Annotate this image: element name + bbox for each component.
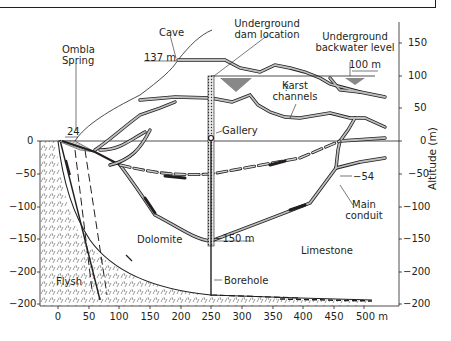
right-axis bbox=[399, 22, 402, 306]
borehole-bottom-label: −150 m bbox=[214, 233, 254, 244]
y-tick: −100 bbox=[403, 202, 430, 212]
left-y-tick: −200 bbox=[9, 299, 36, 309]
x-tick: 50 bbox=[83, 312, 96, 322]
left-y-tick: −200 bbox=[9, 267, 36, 277]
left-y-tick: −150 bbox=[9, 234, 36, 244]
backwater-line1: Underground bbox=[312, 31, 398, 42]
flysh-label: Flysh bbox=[56, 276, 82, 287]
left-y-tick: −100 bbox=[9, 202, 36, 212]
y-tick: 150 bbox=[408, 38, 427, 48]
y-tick: −200 bbox=[403, 267, 430, 277]
dam-location-line1: Underground bbox=[222, 18, 312, 29]
gallery-marker bbox=[209, 136, 214, 141]
limestone-label: Limestone bbox=[301, 245, 353, 256]
left-y-tick: 0 bbox=[27, 136, 33, 146]
main-conduit-line1: Main bbox=[340, 199, 388, 210]
borehole-label: Borehole bbox=[224, 275, 268, 286]
karst-line1: Karst bbox=[270, 80, 320, 91]
x-tick: 100 bbox=[109, 312, 128, 322]
y-tick: −150 bbox=[403, 234, 430, 244]
x-tick: 500 m bbox=[356, 312, 388, 322]
x-tick: 400 bbox=[293, 312, 312, 322]
conduit-elevation-label: −54 bbox=[353, 171, 374, 182]
x-tick: 450 bbox=[324, 312, 343, 322]
backwater-elevation-label: 100 m bbox=[349, 59, 381, 70]
left-axis bbox=[37, 141, 40, 306]
dolomite-label: Dolomite bbox=[137, 234, 182, 245]
cross-section-figure: Cave 137 m Ombla Spring 24 Underground d… bbox=[0, 0, 451, 341]
backwater-level-label: Underground backwater level bbox=[312, 31, 398, 53]
y-tick: 100 bbox=[408, 71, 427, 81]
dam-location-line2: dam location bbox=[222, 29, 312, 40]
x-tick: 300 bbox=[232, 312, 251, 322]
x-tick: 200 bbox=[171, 312, 190, 322]
ombla-spring-line2: Spring bbox=[62, 55, 92, 66]
karst-line2: channels bbox=[270, 91, 320, 102]
main-conduit-line2: conduit bbox=[340, 210, 388, 221]
ombla-spring-label: Ombla Spring bbox=[62, 44, 92, 66]
dam-location-label: Underground dam location bbox=[222, 18, 312, 40]
left-y-tick: −50 bbox=[15, 169, 36, 179]
x-tick: 350 bbox=[263, 312, 282, 322]
cave-label: Cave bbox=[159, 27, 184, 38]
x-tick: 0 bbox=[55, 312, 61, 322]
karst-channels-label: Karst channels bbox=[270, 80, 320, 102]
main-conduit-label: Main conduit bbox=[340, 199, 388, 221]
x-tick: 250 bbox=[201, 312, 220, 322]
terrain-surface bbox=[75, 30, 212, 141]
y-tick: 50 bbox=[414, 103, 427, 113]
gallery-label: Gallery bbox=[222, 125, 258, 136]
y-tick: −200 bbox=[403, 299, 430, 309]
x-tick: 150 bbox=[140, 312, 159, 322]
ombla-spring-line1: Ombla bbox=[62, 44, 92, 55]
cave-elevation-label: 137 m bbox=[144, 52, 176, 63]
backwater-line2: backwater level bbox=[312, 42, 398, 53]
flysch-body bbox=[40, 140, 372, 306]
spring-elevation-label: 24 bbox=[67, 126, 80, 137]
bottom-axis bbox=[40, 306, 399, 309]
y-axis-label: Altitude (m) bbox=[426, 127, 438, 190]
